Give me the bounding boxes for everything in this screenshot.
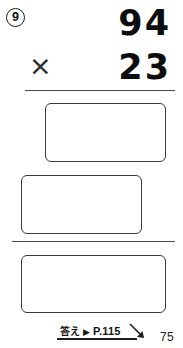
- multiplicand: 94: [118, 6, 171, 41]
- page-number: 75: [160, 330, 174, 344]
- multiplier: 23: [118, 50, 171, 85]
- multiplication-operator-icon: ×: [29, 52, 52, 79]
- answer-reference[interactable]: 答え ▶ P.115: [60, 323, 121, 338]
- arrow-down-right-icon: [128, 322, 148, 340]
- answer-reference-label: 答え: [60, 323, 80, 338]
- answer-box-final-product[interactable]: [21, 255, 166, 313]
- answer-box-partial-product-second[interactable]: [21, 175, 142, 234]
- worksheet-page: 9 94 × 23 答え ▶ P.115 75: [0, 0, 183, 348]
- answer-reference-page: P.115: [93, 325, 121, 337]
- triangle-right-icon: ▶: [83, 327, 90, 337]
- sum-divider-line: [12, 241, 175, 242]
- problem-divider-line: [25, 90, 175, 91]
- answer-reference-underline: [57, 338, 137, 340]
- answer-box-partial-product-first[interactable]: [45, 103, 166, 162]
- problem-number-badge: 9: [6, 8, 25, 27]
